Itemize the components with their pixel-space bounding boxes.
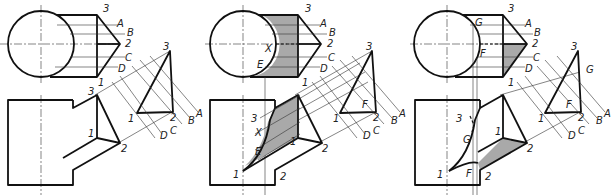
label-F: F bbox=[566, 99, 572, 110]
label-1: 1 bbox=[333, 113, 339, 124]
label-E: E bbox=[255, 146, 262, 157]
label-2: 2 bbox=[527, 143, 533, 154]
label-G: G bbox=[475, 17, 483, 28]
label-1: 1 bbox=[88, 128, 94, 139]
label-1: 1 bbox=[290, 136, 296, 147]
label-C: C bbox=[373, 125, 380, 136]
drawing-canvas: 3 A B 2 C D 1 3 1 2 A B C D bbox=[0, 0, 616, 195]
label-2: 2 bbox=[578, 112, 584, 123]
label-C: C bbox=[125, 52, 132, 63]
label-A: A bbox=[116, 18, 124, 29]
label-B: B bbox=[127, 27, 134, 38]
label-B: B bbox=[534, 27, 541, 38]
front-view bbox=[210, 95, 322, 195]
label-F: F bbox=[480, 48, 486, 59]
front-view bbox=[8, 95, 120, 195]
label-3: 3 bbox=[508, 3, 514, 14]
label-D: D bbox=[363, 130, 371, 141]
label-1: 1 bbox=[98, 77, 104, 88]
label-D: D bbox=[568, 130, 576, 141]
panel-step-1: 3 A B 2 C D 1 3 1 2 A B C D bbox=[0, 3, 203, 195]
label-B: B bbox=[596, 115, 603, 126]
label-B: B bbox=[391, 115, 398, 126]
label-C: C bbox=[533, 52, 540, 63]
label-D: D bbox=[118, 63, 126, 74]
label-2: 2 bbox=[280, 171, 286, 182]
label-A: A bbox=[195, 108, 203, 119]
label-3: 3 bbox=[251, 113, 257, 124]
label-2: 2 bbox=[125, 38, 131, 49]
auxiliary-view bbox=[95, 51, 198, 142]
label-A: A bbox=[398, 108, 406, 119]
label-A: A bbox=[524, 18, 532, 29]
label-C: C bbox=[328, 52, 335, 63]
label-C: C bbox=[578, 125, 585, 136]
label-D: D bbox=[320, 63, 328, 74]
label-C: C bbox=[170, 125, 177, 136]
label-X: X bbox=[264, 43, 273, 54]
top-view bbox=[0, 5, 125, 85]
panel-step-3: G 3 A B 2 F C D 1 3 G F 1 2 A B C D bbox=[410, 3, 611, 195]
label-3: 3 bbox=[456, 113, 462, 124]
label-2: 2 bbox=[170, 112, 176, 123]
label-2: 2 bbox=[373, 112, 379, 123]
label-2: 2 bbox=[485, 171, 491, 182]
label-1: 1 bbox=[495, 126, 501, 137]
label-2: 2 bbox=[532, 38, 538, 49]
label-2: 2 bbox=[121, 143, 127, 154]
label-1: 1 bbox=[302, 77, 308, 88]
label-B: B bbox=[329, 27, 336, 38]
label-3: 3 bbox=[571, 41, 577, 52]
label-3: 3 bbox=[88, 86, 94, 97]
label-B: B bbox=[188, 115, 195, 126]
label-F: F bbox=[466, 168, 472, 179]
label-2: 2 bbox=[327, 38, 333, 49]
label-G: G bbox=[463, 134, 471, 145]
front-view bbox=[415, 95, 527, 195]
label-E: E bbox=[257, 59, 264, 70]
label-3: 3 bbox=[163, 41, 169, 52]
label-1: 1 bbox=[538, 113, 544, 124]
label-3: 3 bbox=[305, 3, 311, 14]
label-1: 1 bbox=[437, 169, 443, 180]
label-1: 1 bbox=[128, 113, 134, 124]
label-3: 3 bbox=[366, 41, 372, 52]
label-A: A bbox=[319, 18, 327, 29]
label-3: 3 bbox=[103, 3, 109, 14]
panel-step-2: 3 A B X 2 C E D 1 3 F 1 2 A B C D bbox=[205, 3, 406, 195]
label-D: D bbox=[160, 130, 168, 141]
label-1: 1 bbox=[233, 169, 239, 180]
label-G: G bbox=[586, 64, 594, 75]
label-2: 2 bbox=[322, 143, 328, 154]
label-X: X bbox=[254, 127, 263, 138]
label-D: D bbox=[525, 63, 533, 74]
label-A: A bbox=[603, 108, 611, 119]
label-1: 1 bbox=[508, 77, 514, 88]
label-F: F bbox=[362, 99, 368, 110]
